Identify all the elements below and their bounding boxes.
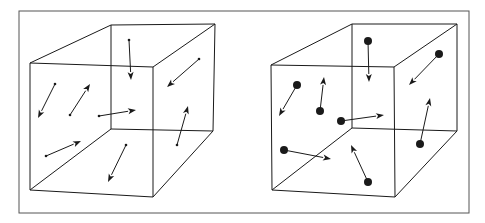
velocity-arrow xyxy=(280,146,331,160)
arrow-shaft xyxy=(420,106,428,144)
arrowhead-icon xyxy=(279,108,286,116)
cube-back-face xyxy=(111,24,215,131)
arrow-shaft xyxy=(283,85,297,109)
arrow-shaft xyxy=(111,145,126,175)
arrowhead-icon xyxy=(366,74,372,82)
velocity-arrow xyxy=(98,108,136,117)
particle-disc xyxy=(364,37,372,45)
arrowhead-icon xyxy=(72,141,81,147)
particle-point xyxy=(98,115,101,118)
particle-disc xyxy=(364,178,372,186)
cube-edge xyxy=(153,131,213,197)
arrow-shaft xyxy=(173,59,199,82)
particle-point xyxy=(198,58,201,61)
particle-point xyxy=(128,39,131,42)
arrowhead-icon xyxy=(320,77,326,85)
arrowhead-icon xyxy=(128,108,136,114)
arrow-shaft xyxy=(354,152,368,182)
cube-edge xyxy=(30,25,111,63)
particle-point xyxy=(69,114,72,117)
velocity-arrow xyxy=(416,98,431,148)
particle-point xyxy=(176,144,179,147)
velocity-arrow xyxy=(69,84,90,116)
velocity-arrow xyxy=(364,37,372,82)
particle-point xyxy=(45,155,48,158)
particle-disc xyxy=(435,50,443,58)
arrow-shaft xyxy=(70,91,86,115)
cube-edge xyxy=(394,24,457,67)
velocity-arrow xyxy=(409,50,443,85)
arrowhead-icon xyxy=(38,110,44,118)
arrow-shaft xyxy=(46,144,74,156)
cube-edge xyxy=(272,128,352,190)
arrow-shaft xyxy=(368,41,369,74)
velocity-arrow xyxy=(351,145,372,186)
arrow-shaft xyxy=(284,150,323,157)
particle-disc xyxy=(316,107,324,115)
figure-frame xyxy=(19,11,469,213)
velocity-arrow xyxy=(108,144,127,182)
velocity-arrow xyxy=(38,83,56,118)
arrowhead-icon xyxy=(425,98,431,106)
velocity-arrow xyxy=(316,77,326,115)
particle-disc xyxy=(416,140,424,148)
diagram-stage xyxy=(0,0,485,223)
cube-edge xyxy=(271,24,352,65)
arrow-shaft xyxy=(415,54,439,79)
velocity-arrow xyxy=(167,58,200,87)
velocity-arrow xyxy=(45,141,81,157)
arrowhead-icon xyxy=(108,173,114,182)
cube-front-face xyxy=(30,63,153,197)
particle-disc xyxy=(293,81,301,89)
arrow-shaft xyxy=(42,84,55,111)
arrowhead-icon xyxy=(323,155,331,161)
velocity-arrow xyxy=(279,81,301,116)
panel-left-point-particles xyxy=(30,24,215,197)
velocity-arrow xyxy=(176,106,189,146)
arrow-shaft xyxy=(177,114,186,145)
arrow-shaft xyxy=(341,116,376,121)
arrow-shaft xyxy=(129,40,131,72)
cube-edge xyxy=(395,131,457,197)
arrowhead-icon xyxy=(376,113,384,119)
velocity-arrow xyxy=(128,39,134,80)
particle-disc xyxy=(337,117,345,125)
particle-point xyxy=(54,83,57,86)
cube-front-face xyxy=(271,65,395,197)
arrowhead-icon xyxy=(183,106,189,115)
arrowhead-icon xyxy=(83,84,90,92)
particle-point xyxy=(125,144,128,147)
velocity-arrow xyxy=(337,113,384,125)
cube-edge xyxy=(153,24,215,67)
arrow-shaft xyxy=(99,111,128,116)
cube-edge xyxy=(30,129,111,190)
particle-disc xyxy=(280,146,288,154)
arrowhead-icon xyxy=(351,145,357,154)
panel-right-disc-particles xyxy=(271,24,457,197)
arrowhead-icon xyxy=(128,72,134,80)
gas-particles-diagram xyxy=(0,0,485,223)
